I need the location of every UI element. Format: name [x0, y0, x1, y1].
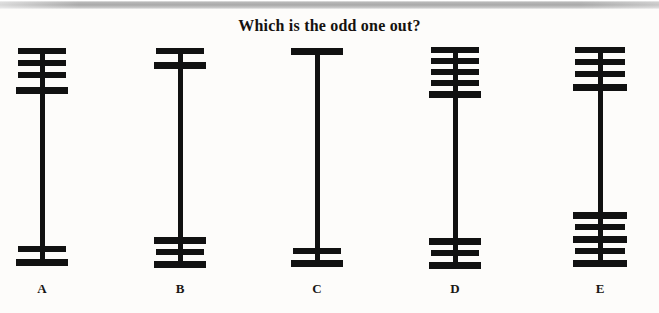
option-label-c[interactable]: C	[312, 281, 321, 297]
option-label-a[interactable]: A	[37, 281, 46, 297]
option-label-e[interactable]: E	[596, 281, 605, 297]
option-label-b[interactable]: B	[176, 281, 185, 297]
option-label-row: ABCDE	[0, 0, 659, 313]
puzzle-page: Which is the odd one out? ABCDE	[0, 0, 659, 313]
option-label-d[interactable]: D	[450, 281, 459, 297]
